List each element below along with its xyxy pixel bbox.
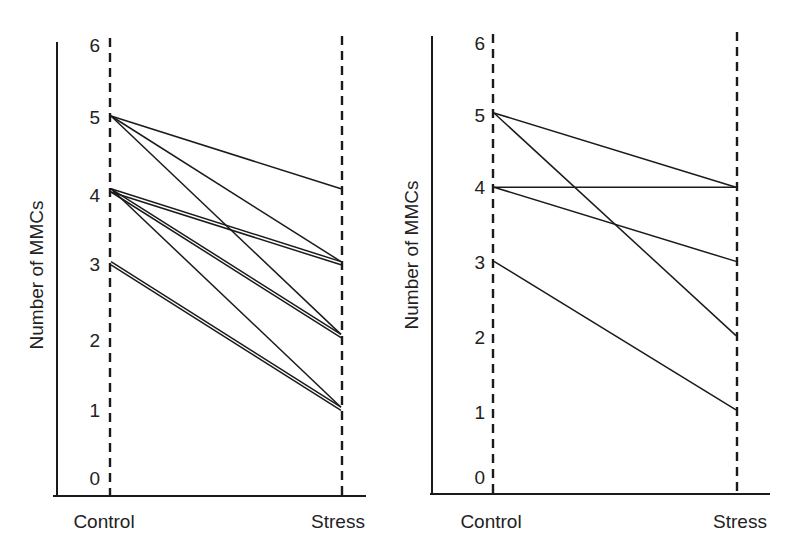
subject-line-5 [111, 192, 341, 265]
y-tick-5: 5 [89, 107, 100, 128]
y-tick-0: 0 [89, 468, 100, 489]
subject-line-7 [111, 192, 341, 338]
y-tick-labels: 0 1 2 3 4 5 6 [474, 33, 485, 488]
y-tick-4: 4 [89, 185, 100, 206]
x-category-stress: Stress [311, 511, 365, 532]
subject-lines [494, 113, 736, 410]
x-category-control: Control [460, 511, 521, 532]
y-tick-labels: 0 1 2 3 4 5 6 [89, 35, 100, 489]
y-tick-1: 1 [474, 402, 485, 423]
subject-line-8 [111, 189, 341, 407]
subject-line-4 [494, 187, 736, 261]
chart-figure: Number of MMCs 0 1 2 3 4 5 6 Control Str… [0, 0, 799, 546]
subject-line-10 [111, 265, 341, 411]
y-tick-2: 2 [474, 327, 485, 348]
y-tick-3: 3 [474, 252, 485, 273]
subject-line-1 [494, 113, 736, 187]
subject-line-9 [111, 262, 341, 408]
y-tick-6: 6 [474, 33, 485, 54]
y-tick-3: 3 [89, 254, 100, 275]
y-axis-label: Number of MMCs [26, 201, 47, 350]
x-category-stress: Stress [713, 511, 767, 532]
y-tick-4: 4 [474, 177, 485, 198]
subject-line-1 [111, 116, 341, 189]
right-panel: Number of MMCs 0 1 2 3 4 5 6 Control Str… [401, 32, 770, 532]
left-panel: Number of MMCs 0 1 2 3 4 5 6 Control Str… [26, 35, 366, 532]
subject-line-4 [111, 189, 341, 262]
y-tick-1: 1 [89, 400, 100, 421]
y-axis-label: Number of MMCs [401, 181, 422, 330]
subject-line-5 [494, 261, 736, 409]
subject-lines [111, 116, 341, 410]
subject-line-2 [111, 116, 341, 262]
y-tick-5: 5 [474, 105, 485, 126]
y-tick-2: 2 [89, 330, 100, 351]
x-category-control: Control [73, 511, 134, 532]
y-tick-6: 6 [89, 35, 100, 56]
subject-line-6 [111, 189, 341, 335]
y-tick-0: 0 [474, 467, 485, 488]
